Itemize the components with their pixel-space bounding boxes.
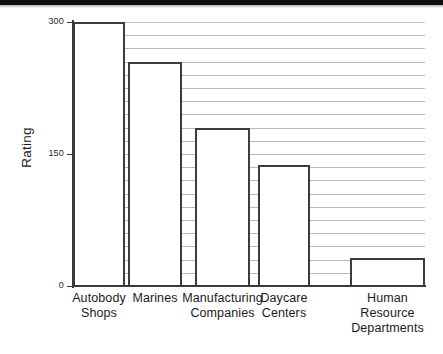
x-axis-label-line: Human (332, 291, 443, 306)
bar (73, 22, 125, 287)
x-axis-line (72, 285, 426, 287)
x-axis-label-line: Centers (228, 306, 340, 321)
scan-edge-fade (0, 5, 443, 8)
x-axis-label-line: Resource (332, 306, 443, 321)
x-axis-category-label: HumanResourceDepartments (332, 291, 443, 336)
x-axis-label-line: Shops (43, 306, 155, 321)
y-axis-tick-label: 0 (24, 280, 64, 290)
bar (128, 62, 182, 287)
bar (195, 128, 250, 287)
y-axis-title: Rating (19, 103, 34, 193)
bar (258, 165, 310, 287)
y-axis-tick-label: 300 (24, 16, 64, 26)
bars-group (73, 22, 425, 286)
x-axis-label-line: Departments (332, 321, 443, 336)
bar (350, 258, 425, 287)
x-axis-label-line: Daycare (228, 291, 340, 306)
x-axis-category-label: DaycareCenters (228, 291, 340, 321)
chart-figure: 0150300 Rating AutobodyShopsMarinesManuf… (0, 0, 443, 354)
y-axis-tick (67, 22, 73, 23)
y-axis-tick (67, 154, 73, 155)
y-axis-tick (67, 286, 73, 287)
